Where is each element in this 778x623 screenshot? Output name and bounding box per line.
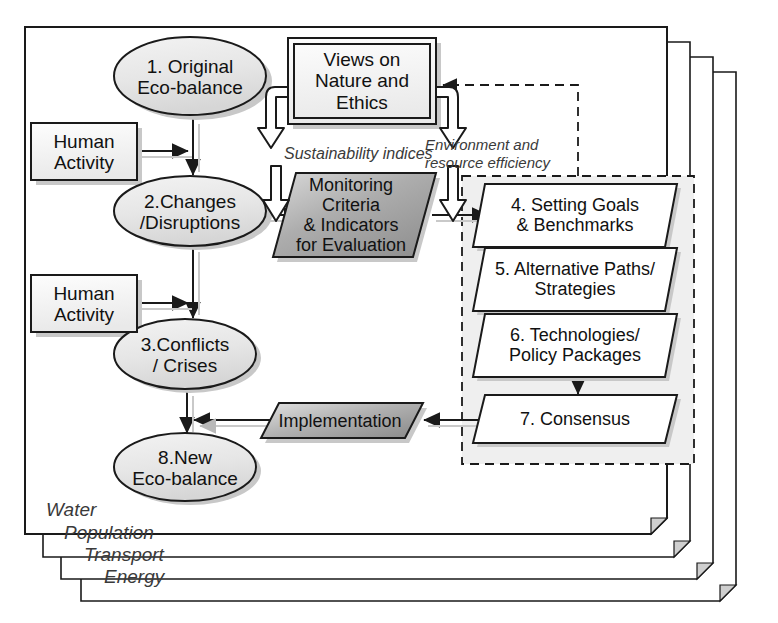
node-alternative-paths[interactable]: [473, 248, 677, 311]
node-eco-new[interactable]: [114, 433, 256, 501]
node-changes[interactable]: [114, 176, 266, 246]
node-monitoring-criteria[interactable]: [273, 173, 436, 257]
node-eco-original[interactable]: [114, 37, 266, 115]
node-human-activity-2[interactable]: [31, 275, 137, 332]
node-human-activity-1[interactable]: [31, 123, 137, 180]
node-technologies-policy[interactable]: [473, 314, 677, 377]
diagram-svg: [0, 0, 778, 623]
diagram-canvas: 1. Original Eco-balance Human Activity 2…: [0, 0, 778, 623]
node-implementation[interactable]: [261, 403, 423, 438]
node-setting-goals[interactable]: [473, 184, 677, 247]
node-consensus[interactable]: [473, 395, 677, 443]
node-views-nature-ethics[interactable]: [288, 38, 436, 124]
